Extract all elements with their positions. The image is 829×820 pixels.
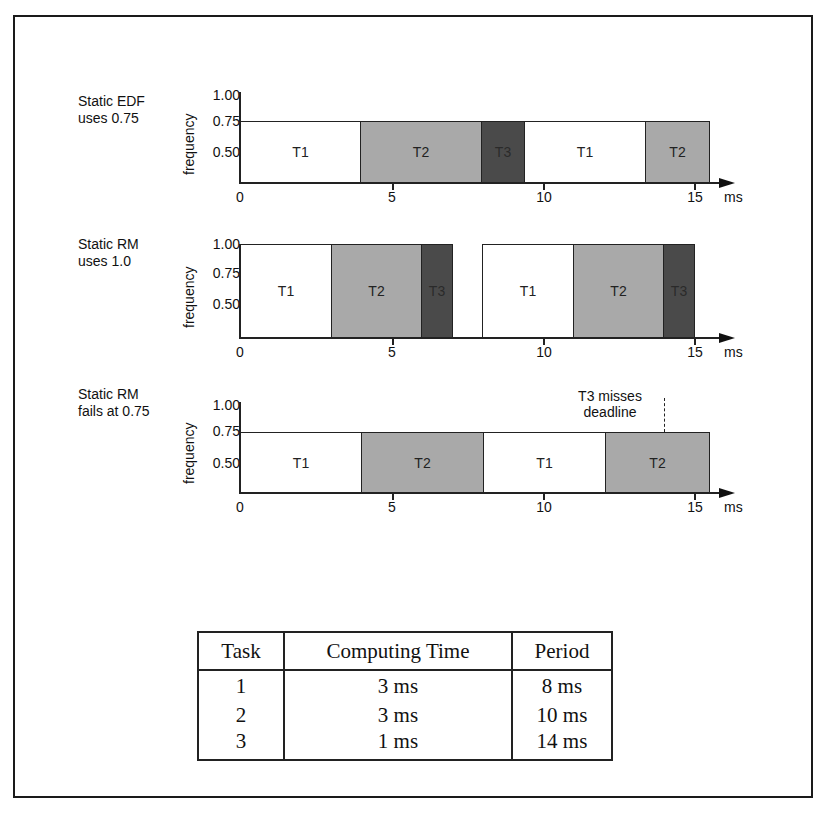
annotation-line2: deadline [550, 404, 670, 420]
deadline-annotation: T3 misses deadline [550, 388, 670, 420]
row-label-line2: fails at 0.75 [78, 403, 150, 420]
segment-t2: T2 [605, 432, 710, 493]
x-unit: ms [724, 499, 743, 515]
x-tick: 10 [529, 189, 559, 205]
y-tick: 1.00 [200, 236, 240, 252]
x-axis [239, 182, 725, 184]
segment-t1: T1 [240, 432, 362, 493]
header-period: Period [512, 632, 612, 670]
segment-t2: T2 [360, 121, 482, 183]
x-tick: 0 [225, 344, 255, 360]
x-tick: 15 [680, 189, 710, 205]
y-tick: 0.75 [200, 113, 240, 129]
cell-computing-time: 3 ms [284, 670, 512, 700]
table-row: 1 3 ms 8 ms [198, 670, 612, 700]
x-tick: 15 [680, 499, 710, 515]
cell-task: 3 [198, 729, 284, 760]
x-axis [239, 337, 725, 339]
segment-t3: T3 [481, 121, 525, 183]
segment-t3: T3 [663, 244, 695, 338]
task-table: Task Computing Time Period 1 3 ms 8 ms 2… [197, 631, 613, 761]
x-tick: 0 [225, 189, 255, 205]
y-tick: 0.50 [200, 455, 240, 471]
row-label: Static RM fails at 0.75 [78, 386, 150, 420]
deadline-marker [664, 398, 665, 432]
segment-t2: T2 [645, 121, 710, 183]
annotation-line1: T3 misses [550, 388, 670, 404]
segment-t1: T1 [240, 244, 332, 338]
segment-t1: T1 [524, 121, 646, 183]
cell-period: 14 ms [512, 729, 612, 760]
header-computing-time: Computing Time [284, 632, 512, 670]
row-label-line2: uses 0.75 [78, 110, 145, 127]
y-tick: 0.75 [200, 265, 240, 281]
y-tick: 1.00 [200, 397, 240, 413]
cell-task: 2 [198, 700, 284, 729]
x-axis [239, 492, 725, 494]
header-task: Task [198, 632, 284, 670]
y-axis-label: frequency [181, 267, 197, 328]
x-tick: 5 [377, 344, 407, 360]
arrow-right-icon [719, 333, 735, 343]
x-unit: ms [724, 189, 743, 205]
table-header-row: Task Computing Time Period [198, 632, 612, 670]
cell-period: 8 ms [512, 670, 612, 700]
segment-t2: T2 [573, 244, 664, 338]
segment-t1: T1 [482, 244, 574, 338]
y-tick: 0.50 [200, 144, 240, 160]
cell-computing-time: 3 ms [284, 700, 512, 729]
x-tick: 5 [377, 189, 407, 205]
y-axis-label: frequency [181, 423, 197, 484]
table-row: 2 3 ms 10 ms [198, 700, 612, 729]
y-tick: 0.75 [200, 423, 240, 439]
table-row: 3 1 ms 14 ms [198, 729, 612, 760]
x-unit: ms [724, 344, 743, 360]
x-tick: 0 [225, 499, 255, 515]
x-tick: 15 [680, 344, 710, 360]
cell-computing-time: 1 ms [284, 729, 512, 760]
arrow-right-icon [719, 178, 735, 188]
row-label-line1: Static RM [78, 236, 139, 253]
cell-period: 10 ms [512, 700, 612, 729]
x-tick: 10 [529, 499, 559, 515]
y-axis-label: frequency [181, 114, 197, 175]
row-label-line2: uses 1.0 [78, 253, 139, 270]
segment-t1: T1 [240, 121, 361, 183]
cell-task: 1 [198, 670, 284, 700]
segment-t2: T2 [361, 432, 484, 493]
row-label: Static RM uses 1.0 [78, 236, 139, 270]
row-label-line1: Static RM [78, 386, 150, 403]
arrow-right-icon [719, 488, 735, 498]
row-label-line1: Static EDF [78, 93, 145, 110]
segment-t3: T3 [421, 244, 453, 338]
segment-t2: T2 [331, 244, 422, 338]
y-tick: 1.00 [200, 87, 240, 103]
y-tick: 0.50 [200, 296, 240, 312]
x-tick: 5 [377, 499, 407, 515]
segment-t1: T1 [483, 432, 606, 493]
row-label: Static EDF uses 0.75 [78, 93, 145, 127]
x-tick: 10 [529, 344, 559, 360]
